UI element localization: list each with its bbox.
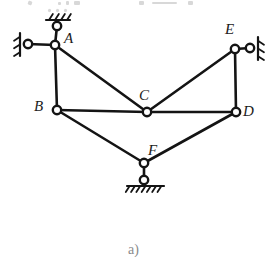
support-left-of-A: [14, 33, 55, 56]
support-right-of-E-pin: [246, 44, 254, 52]
link-B-C: [57, 110, 147, 112]
joint-E: [231, 45, 239, 53]
joint-B: [53, 106, 61, 114]
supports-group: [14, 14, 264, 192]
joint-label-E: E: [225, 22, 234, 37]
support-below-F-pin: [140, 176, 148, 184]
joint-label-F: F: [148, 143, 157, 158]
link-D-F: [144, 112, 236, 163]
link-B-F: [57, 110, 144, 163]
joints-group: [51, 41, 240, 167]
joint-F: [140, 159, 148, 167]
link-A-C: [55, 45, 147, 112]
joint-A: [51, 41, 59, 49]
joint-label-C: C: [139, 88, 149, 103]
figure-caption: a): [128, 243, 139, 257]
joint-D: [232, 108, 240, 116]
links-group: [55, 45, 236, 163]
joint-C: [143, 108, 151, 116]
link-A-B: [55, 45, 57, 110]
link-C-E: [147, 49, 235, 112]
joint-label-B: B: [34, 99, 43, 114]
joint-label-D: D: [243, 104, 254, 119]
joint-label-A: A: [64, 31, 73, 46]
support-above-A-pin: [53, 22, 61, 30]
support-left-of-A-pin: [24, 40, 32, 48]
link-E-D: [235, 49, 236, 112]
